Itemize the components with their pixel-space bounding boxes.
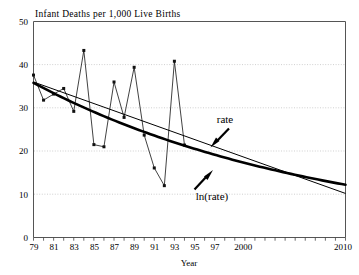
x-tick-label-81: 81 <box>50 242 59 252</box>
data-point-marker <box>133 66 136 69</box>
y-tick-label-20: 20 <box>19 146 29 156</box>
x-tick-label-85: 85 <box>90 242 100 252</box>
data-point-marker <box>62 87 65 90</box>
data-point-marker <box>102 145 105 148</box>
x-tick-label-2000: 2000 <box>234 242 253 252</box>
x-tick-label-2010: 2010 <box>334 242 353 252</box>
rate-annotation-label: rate <box>217 113 234 125</box>
x-tick-label-87: 87 <box>110 242 120 252</box>
x-tick-label-91: 91 <box>150 242 159 252</box>
y-tick-label-0: 0 <box>24 233 29 243</box>
data-point-marker <box>32 74 35 77</box>
data-point-marker <box>173 60 176 63</box>
data-point-marker <box>163 184 166 187</box>
x-tick-label-97: 97 <box>211 242 221 252</box>
y-tick-label-30: 30 <box>19 103 29 113</box>
lnrate-annotation-label: ln(rate) <box>196 190 229 203</box>
data-point-marker <box>153 166 156 169</box>
x-tick-label-83: 83 <box>70 242 80 252</box>
chart-title: Infant Deaths per 1,000 Live Births <box>35 9 181 19</box>
chart-background <box>0 0 359 275</box>
x-tick-label-95: 95 <box>191 242 201 252</box>
y-tick-label-10: 10 <box>19 190 29 200</box>
data-point-marker <box>42 99 45 102</box>
y-tick-label-50: 50 <box>19 17 29 27</box>
y-tick-label-40: 40 <box>19 60 29 70</box>
infant-mortality-line-chart: Infant Deaths per 1,000 Live Births 0 10… <box>0 0 359 275</box>
data-point-marker <box>82 49 85 52</box>
x-axis-title: Year <box>181 258 198 268</box>
data-point-marker <box>113 80 116 83</box>
data-point-marker <box>143 134 146 137</box>
x-tick-label-93: 93 <box>170 242 180 252</box>
x-tick-label-89: 89 <box>130 242 140 252</box>
data-point-marker <box>72 110 75 113</box>
x-tick-label-79: 79 <box>30 242 40 252</box>
data-point-marker <box>92 143 95 146</box>
data-point-marker <box>123 116 126 119</box>
chart-container: Infant Deaths per 1,000 Live Births 0 10… <box>0 0 359 275</box>
